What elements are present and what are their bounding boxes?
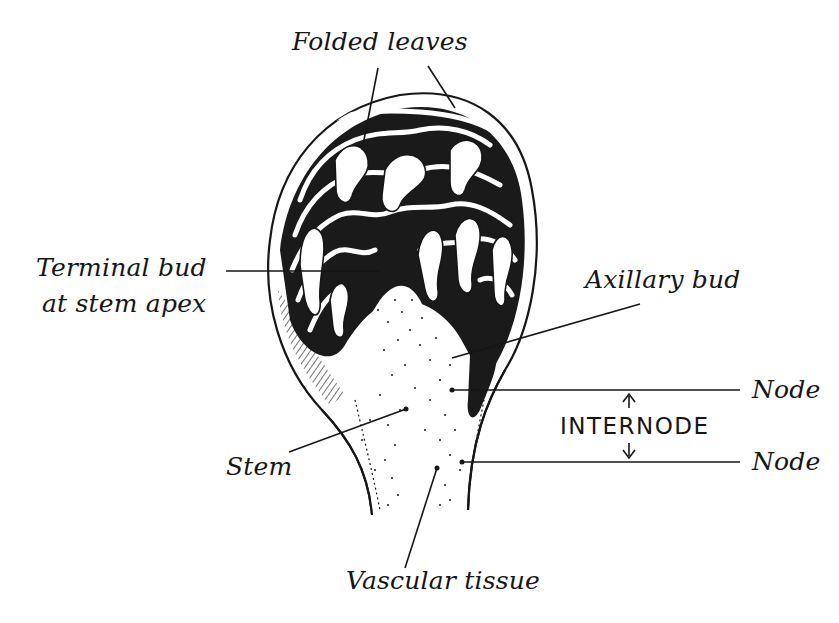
label-node-lower: Node	[752, 448, 821, 477]
label-stem: Stem	[226, 453, 292, 482]
label-internode: INTERNODE	[560, 413, 710, 439]
label-folded-leaves: Folded leaves	[292, 28, 468, 57]
bud-body	[268, 93, 537, 525]
label-terminal-bud-line2: at stem apex	[42, 290, 206, 319]
label-vascular-tissue: Vascular tissue	[346, 567, 540, 596]
label-terminal-bud-line1: Terminal bud	[36, 254, 207, 283]
label-node-upper: Node	[752, 376, 821, 405]
label-axillary-bud: Axillary bud	[585, 266, 741, 295]
